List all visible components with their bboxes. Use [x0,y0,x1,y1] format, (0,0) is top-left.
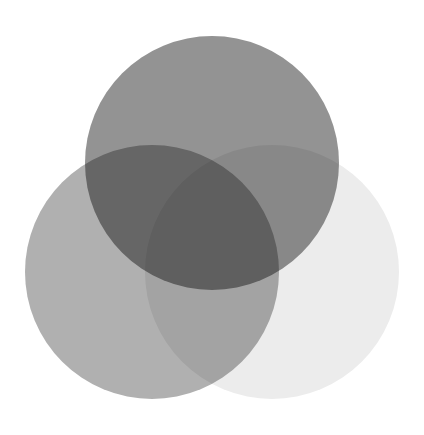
venn-diagram-canvas [0,0,424,435]
venn-diagram-svg [0,0,424,435]
venn-circle-set-c [145,145,399,399]
